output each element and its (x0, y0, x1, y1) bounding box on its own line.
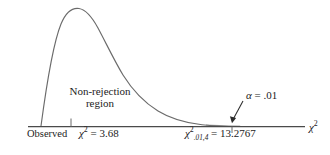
observed-label-text: Observed (27, 128, 67, 139)
alpha-arrow-shaft (233, 101, 243, 120)
observed-label: Observed (27, 128, 67, 140)
alpha-annotation: α = .01 (246, 89, 277, 101)
x-axis-title: χ2 (309, 121, 318, 133)
non-rejection-region-line1: Non-rejection (69, 85, 130, 97)
axis-chi-superscript: 2 (314, 119, 318, 128)
critical-value-number: = 13.2767 (208, 127, 255, 139)
non-rejection-region-line2: region (50, 97, 150, 109)
alpha-arrow-head (230, 116, 236, 123)
critical-value-label: χ2.01,4 = 13.2767 (185, 127, 256, 139)
observed-statistic-value: = 3.68 (88, 127, 119, 139)
observed-statistic-label: χ2 = 3.68 (79, 127, 119, 139)
critical-chi-subscript: .01,4 (194, 134, 209, 142)
chi-square-figure: Non-rejection region α = .01 Observed χ2… (0, 0, 330, 155)
alpha-value: = .01 (252, 89, 277, 101)
critical-chi-superscript: 2 (190, 125, 194, 134)
non-rejection-region-label: Non-rejection region (50, 85, 150, 110)
